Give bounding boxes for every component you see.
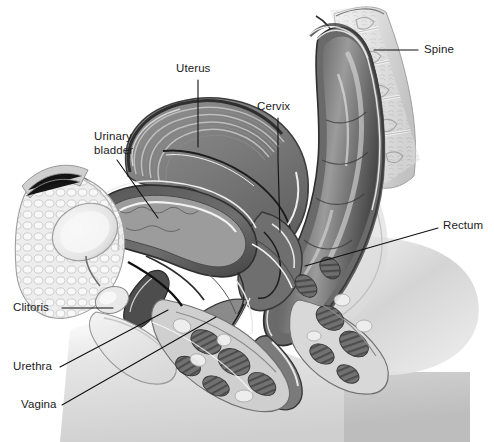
- label-rectum: Rectum: [443, 219, 483, 232]
- label-spine: Spine: [424, 43, 454, 56]
- anatomy-illustration: [0, 0, 494, 442]
- label-cervix: Cervix: [257, 100, 290, 113]
- label-vagina: Vagina: [21, 398, 57, 411]
- label-uterus: Uterus: [176, 62, 210, 75]
- figure-canvas: Spine Uterus Cervix Urinary bladder Rect…: [0, 0, 494, 442]
- label-urinary-bladder: Urinary bladder: [94, 130, 133, 157]
- label-clitoris: Clitoris: [13, 301, 49, 314]
- label-urethra: Urethra: [13, 360, 52, 373]
